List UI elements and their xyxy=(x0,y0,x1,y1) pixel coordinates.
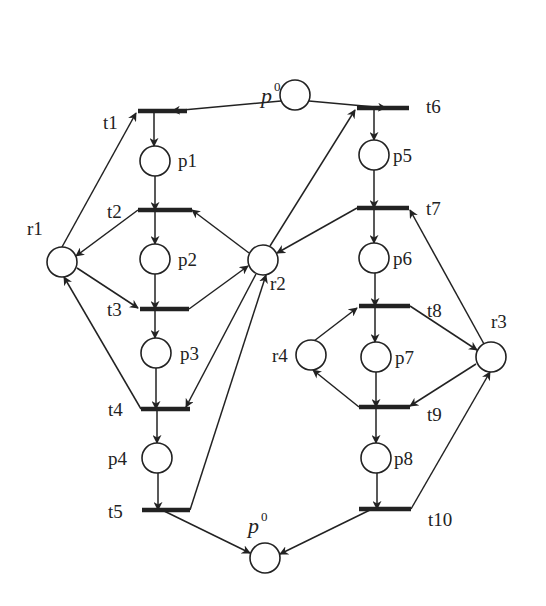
place-label-p5: p5 xyxy=(393,145,412,166)
transition-label-t7: t7 xyxy=(426,198,441,219)
place-label-p0_top: p xyxy=(259,83,272,108)
place-label-p6: p6 xyxy=(393,248,412,269)
place-label-p2: p2 xyxy=(178,249,197,270)
place-p4 xyxy=(142,443,172,473)
arc-r2-to-t2 xyxy=(192,210,249,253)
place-label-r3: r3 xyxy=(491,311,507,332)
place-p0_top xyxy=(280,80,310,110)
transition-label-t8: t8 xyxy=(427,300,442,321)
petri-net-diagram: t1t2t3t4t5t6t7t8t9t10p0p1p2p3p4p5p6p7p8r… xyxy=(0,0,546,606)
transition-label-t5: t5 xyxy=(108,501,123,522)
arc-t10-to-r3 xyxy=(411,372,490,509)
labels-layer: t1t2t3t4t5t6t7t8t9t10p0p1p2p3p4p5p6p7p8r… xyxy=(27,79,507,538)
place-label-p7: p7 xyxy=(395,347,414,368)
arc-t5-to-r2 xyxy=(190,275,266,510)
place-label-r1: r1 xyxy=(27,218,43,239)
arc-t9-to-r4 xyxy=(313,370,359,407)
place-label-sup-p0_top: 0 xyxy=(274,79,281,94)
transition-label-t4: t4 xyxy=(108,399,123,420)
place-label-p3: p3 xyxy=(180,343,199,364)
transition-label-t1: t1 xyxy=(103,112,118,133)
arc-t3-to-r2 xyxy=(189,266,248,309)
arc-t10-to-p0_bottom xyxy=(280,509,372,554)
place-p3 xyxy=(141,338,171,368)
arc-t5-to-p0_bottom xyxy=(162,510,250,553)
transition-label-t10: t10 xyxy=(428,509,452,530)
place-label-p8: p8 xyxy=(394,448,413,469)
places-layer xyxy=(47,80,506,573)
place-label-sup-p0_bottom: 0 xyxy=(261,509,268,524)
place-r2 xyxy=(248,245,278,275)
transition-label-t2: t2 xyxy=(107,201,122,222)
place-p5 xyxy=(359,140,389,170)
arc-r4-to-t8 xyxy=(314,308,357,341)
transition-label-t9: t9 xyxy=(427,404,442,425)
place-p8 xyxy=(361,443,391,473)
arc-r3-to-t7 xyxy=(410,210,484,344)
arc-t4-to-r1 xyxy=(64,277,141,409)
place-p7 xyxy=(361,342,391,372)
arc-r3-to-t9 xyxy=(410,364,476,406)
arc-r1-to-t1 xyxy=(62,113,136,247)
transition-label-t6: t6 xyxy=(426,96,441,117)
arc-r2-to-t6 xyxy=(270,110,355,246)
place-p1 xyxy=(140,146,170,176)
place-r4 xyxy=(296,340,326,370)
place-label-p0_bottom: p xyxy=(246,513,259,538)
place-label-p1: p1 xyxy=(178,150,197,171)
place-label-r4: r4 xyxy=(272,345,288,366)
transition-label-t3: t3 xyxy=(107,299,122,320)
place-label-p4: p4 xyxy=(108,448,128,469)
arcs-layer xyxy=(62,101,490,554)
place-p2 xyxy=(140,244,170,274)
place-label-r2: r2 xyxy=(270,273,286,294)
place-p0_bottom xyxy=(250,543,280,573)
place-r3 xyxy=(476,342,506,372)
place-p6 xyxy=(359,243,389,273)
place-r1 xyxy=(47,247,77,277)
